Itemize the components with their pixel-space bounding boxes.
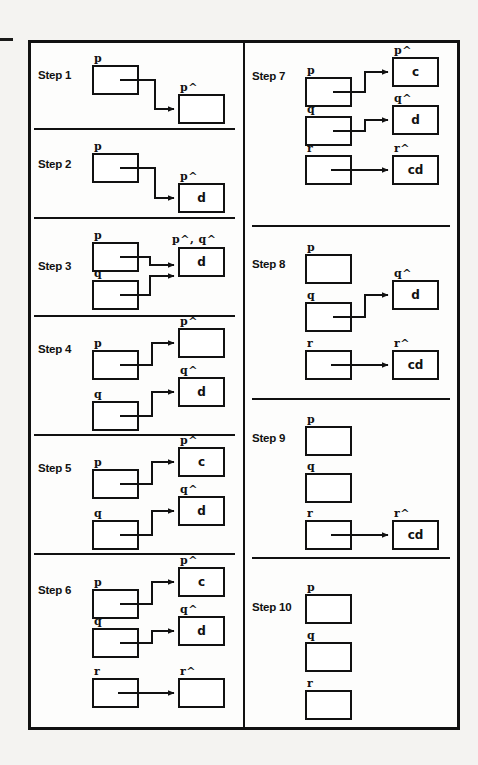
- caption-q-step4: q: [94, 388, 102, 401]
- box-r-deref-step7: cd: [392, 155, 439, 185]
- box-p-step2: [92, 153, 139, 183]
- separator-1: [34, 128, 235, 130]
- caption-p-step9: p: [307, 413, 315, 426]
- box-r-step8: [305, 350, 352, 380]
- box-pq-deref-step3: d: [178, 247, 225, 277]
- caption-q-step8: q: [307, 289, 315, 302]
- box-value-q-step3: [94, 282, 137, 308]
- box-value-q-step4: [94, 403, 137, 429]
- box-p-deref-step5: c: [178, 447, 225, 477]
- caption-pq-deref-step3: p^, q^: [172, 233, 216, 246]
- box-value-q-step9: [307, 475, 350, 501]
- box-value-r-deref-step6: [180, 680, 223, 706]
- caption-q-step3: q: [94, 267, 102, 280]
- caption-p-deref-step5: p^: [180, 434, 198, 447]
- box-r-deref-step6: [178, 678, 225, 708]
- box-value-q-step5: [94, 522, 137, 548]
- step-label-step2: Step 2: [38, 158, 71, 170]
- caption-p-deref-step4: p^: [180, 315, 198, 328]
- figure-stage: Step 1 p p^ Step 2 p p^ d Step 3 p q: [0, 0, 478, 765]
- box-value-p-step8: [307, 256, 350, 282]
- step-label-step1: Step 1: [38, 69, 71, 81]
- box-p-step9: [305, 426, 352, 456]
- separator-8: [252, 557, 450, 559]
- caption-r-deref-step7: r^: [394, 142, 410, 155]
- caption-p-deref-step6: p^: [180, 554, 198, 567]
- box-p-deref-step7: c: [392, 57, 439, 87]
- box-q-deref-step5: d: [178, 496, 225, 526]
- box-p-deref-step6: c: [178, 567, 225, 597]
- caption-p-step5: p: [94, 456, 102, 469]
- box-value-p-step4: [94, 352, 137, 378]
- box-value-p-step7: [307, 79, 350, 105]
- box-r-step9: [305, 520, 352, 550]
- box-value-p-step1: [94, 67, 137, 93]
- caption-p-deref-step1: p^: [180, 81, 198, 94]
- box-r-step6: [92, 678, 139, 708]
- box-p-step4: [92, 350, 139, 380]
- box-value-r-step10: [307, 692, 350, 718]
- box-p-step10: [305, 594, 352, 624]
- caption-p-step7: p: [307, 64, 315, 77]
- box-value-p-step6: [94, 591, 137, 617]
- box-p-deref-step2: d: [178, 183, 225, 213]
- box-value-q-deref-step8: d: [394, 282, 437, 308]
- box-p-deref-step1: [178, 94, 225, 124]
- caption-r-step9: r: [307, 507, 313, 520]
- separator-4: [34, 434, 235, 436]
- box-value-p-step10: [307, 596, 350, 622]
- step-label-step6: Step 6: [38, 584, 71, 596]
- box-q-step4: [92, 401, 139, 431]
- step-label-step7: Step 7: [252, 70, 285, 82]
- box-value-q-deref-step6: d: [180, 618, 223, 644]
- box-value-p-deref-step4: [180, 330, 223, 356]
- box-value-q-step6: [94, 630, 137, 656]
- step-label-step10: Step 10: [252, 601, 292, 613]
- caption-r-step8: r: [307, 337, 313, 350]
- box-value-p-deref-step5: c: [180, 449, 223, 475]
- box-p-step1: [92, 65, 139, 95]
- box-r-step7: [305, 155, 352, 185]
- caption-q-step7: q: [307, 103, 315, 116]
- box-q-step3: [92, 280, 139, 310]
- step-label-step8: Step 8: [252, 258, 285, 270]
- caption-p-step2: p: [94, 140, 102, 153]
- box-q-step8: [305, 302, 352, 332]
- box-value-pq-deref-step3: d: [180, 249, 223, 275]
- box-value-p-deref-step7: c: [394, 59, 437, 85]
- box-p-deref-step4: [178, 328, 225, 358]
- box-value-q-step7: [307, 118, 350, 144]
- box-p-step8: [305, 254, 352, 284]
- box-value-r-deref-step8: cd: [394, 352, 437, 378]
- separator-3: [34, 315, 235, 317]
- box-value-r-step6: [94, 680, 137, 706]
- separator-5: [34, 553, 235, 555]
- edge-tick-mark: [0, 38, 13, 41]
- box-q-step6: [92, 628, 139, 658]
- caption-q-deref-step6: q^: [180, 603, 198, 616]
- caption-r-step10: r: [307, 677, 313, 690]
- caption-p-step6: p: [94, 576, 102, 589]
- separator-6: [252, 225, 450, 227]
- box-q-step9: [305, 473, 352, 503]
- box-value-q-step10: [307, 644, 350, 670]
- caption-q-step5: q: [94, 507, 102, 520]
- separator-7: [252, 398, 450, 400]
- box-r-step10: [305, 690, 352, 720]
- caption-p-deref-step7: p^: [394, 44, 412, 57]
- box-value-p-deref-step6: c: [180, 569, 223, 595]
- box-value-q-deref-step7: d: [394, 107, 437, 133]
- box-value-p-step5: [94, 471, 137, 497]
- caption-p-deref-step2: p^: [180, 170, 198, 183]
- caption-q-deref-step5: q^: [180, 483, 198, 496]
- caption-q-step9: q: [307, 460, 315, 473]
- box-q-deref-step4: d: [178, 377, 225, 407]
- box-value-q-step8: [307, 304, 350, 330]
- box-value-r-step9: [307, 522, 350, 548]
- step-label-step3: Step 3: [38, 260, 71, 272]
- box-q-step10: [305, 642, 352, 672]
- caption-r-deref-step9: r^: [394, 507, 410, 520]
- box-value-r-step7: [307, 157, 350, 183]
- step-label-step9: Step 9: [252, 432, 285, 444]
- box-value-r-step8: [307, 352, 350, 378]
